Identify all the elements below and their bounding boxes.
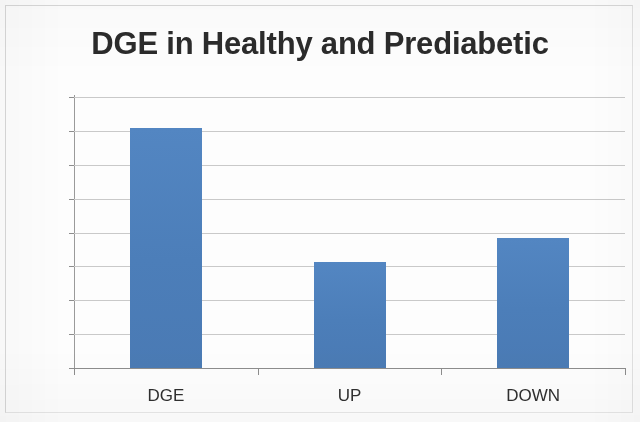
y-axis-tick-3000 xyxy=(69,165,74,166)
x-axis-label-dge: DGE xyxy=(147,386,184,406)
gridline-4000 xyxy=(74,97,625,98)
bar-dge xyxy=(130,128,202,368)
y-axis-tick-500 xyxy=(69,334,74,335)
bar-down xyxy=(497,238,569,368)
plot-area xyxy=(74,97,625,368)
gridline-0 xyxy=(74,368,625,369)
y-axis-tick-4000 xyxy=(69,97,74,98)
y-axis-tick-2000 xyxy=(69,233,74,234)
y-axis-tick-2500 xyxy=(69,199,74,200)
y-axis-tick-1500 xyxy=(69,266,74,267)
x-axis-tick-0 xyxy=(74,368,75,375)
x-axis-tick-2 xyxy=(441,368,442,375)
bar-up xyxy=(314,262,386,368)
bar-chart-figure: DGE in Healthy and Prediabetic 400035003… xyxy=(0,0,640,422)
x-axis-tick-1 xyxy=(258,368,259,375)
chart-title: DGE in Healthy and Prediabetic xyxy=(0,26,640,62)
x-axis-tick-3 xyxy=(625,368,626,375)
y-axis-tick-1000 xyxy=(69,300,74,301)
y-axis-tick-3500 xyxy=(69,131,74,132)
x-axis-label-down: DOWN xyxy=(506,386,560,406)
x-axis-label-up: UP xyxy=(338,386,362,406)
